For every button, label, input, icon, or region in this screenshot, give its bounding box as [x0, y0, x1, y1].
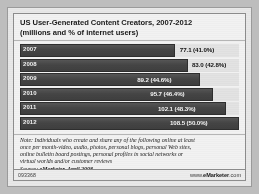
bar-2007 — [20, 44, 175, 57]
bar-value-label: 95.7 (46.4%) — [150, 90, 184, 97]
bar-row-2012: 2012 108.5 (50.0%) — [20, 117, 239, 130]
emarketer-chart-card: US User-Generated Content Creators, 2007… — [13, 13, 246, 181]
url-suffix: .com — [229, 172, 241, 178]
chart-id: 093368 — [18, 172, 36, 178]
bar-row-2009: 2009 89.2 (44.6%) — [20, 73, 239, 86]
note-line: once per month-video, audio, photos, per… — [20, 144, 239, 151]
chart-paper: US User-Generated Content Creators, 2007… — [8, 8, 251, 186]
note-line: virtual worlds and/or customer reviews — [20, 158, 239, 165]
bar-value-label: 77.1 (41.0%) — [180, 46, 214, 53]
chart-plot-area: 2007 77.1 (41.0%) 2008 83.0 (42.8%) 2009… — [14, 41, 245, 133]
bar-value-label: 89.2 (44.6%) — [137, 76, 171, 83]
url-brand: eMarketer — [203, 172, 229, 178]
bar-category-label: 2012 — [23, 119, 37, 125]
note-line: online bulletin board postings, personal… — [20, 151, 239, 158]
bar-row-2011: 2011 102.1 (48.3%) — [20, 102, 239, 115]
url-prefix: www. — [190, 172, 203, 178]
bar-category-label: 2009 — [23, 75, 37, 81]
bar-row-2008: 2008 83.0 (42.8%) — [20, 59, 239, 72]
bar-value-label: 108.5 (50.0%) — [170, 119, 208, 126]
chart-title-block: US User-Generated Content Creators, 2007… — [14, 14, 245, 41]
chart-subtitle: (millions and % of internet users) — [20, 28, 239, 38]
bar-value-label: 102.1 (48.3%) — [158, 105, 196, 112]
chart-footer: 093368 www.eMarketer.com — [14, 169, 245, 180]
bar-category-label: 2008 — [23, 61, 37, 67]
note-line: Note: Individuals who create and share a… — [20, 137, 239, 144]
bar-value-label: 83.0 (42.8%) — [192, 61, 226, 68]
chart-note-block: Note: Individuals who create and share a… — [14, 134, 245, 174]
bar-2009 — [20, 73, 200, 86]
bar-row-2010: 2010 95.7 (46.4%) — [20, 88, 239, 101]
emarketer-url[interactable]: www.eMarketer.com — [190, 172, 241, 178]
bar-row-2007: 2007 77.1 (41.0%) — [20, 44, 239, 57]
bar-category-label: 2010 — [23, 90, 37, 96]
bar-2008 — [20, 59, 188, 72]
chart-title: US User-Generated Content Creators, 2007… — [20, 18, 239, 28]
bar-category-label: 2011 — [23, 104, 36, 110]
bar-category-label: 2007 — [23, 46, 37, 52]
screenshot-root: US User-Generated Content Creators, 2007… — [0, 0, 259, 194]
